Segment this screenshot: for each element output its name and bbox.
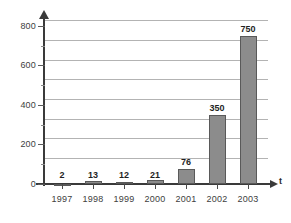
x-tick-2003 <box>248 184 249 189</box>
x-tick-label-1998: 1998 <box>76 194 110 204</box>
x-tick-label-2001: 2001 <box>169 194 203 204</box>
y-tick-0 <box>38 184 45 185</box>
bar-2001[interactable] <box>178 169 195 184</box>
x-tick-2001 <box>186 184 187 189</box>
x-tick-label-2003: 2003 <box>231 194 265 204</box>
x-tick-1999 <box>124 184 125 189</box>
x-tick-1997 <box>62 184 63 189</box>
y-tick-700 <box>41 46 45 47</box>
gridline-100 <box>44 158 268 159</box>
gridline-700 <box>44 40 268 41</box>
x-tick-label-2000: 2000 <box>138 194 172 204</box>
y-tick-500 <box>41 85 45 86</box>
gridline-600 <box>44 60 268 61</box>
x-tick-label-2002: 2002 <box>200 194 234 204</box>
y-tick-label-600: 600 <box>8 61 36 70</box>
y-tick-label-400: 400 <box>8 101 36 110</box>
plot-area <box>44 20 268 184</box>
x-axis-arrow-icon <box>270 180 278 188</box>
y-tick-label-800: 800 <box>8 22 36 31</box>
bar-chart: t 0 200 400 600 800 2 13 12 21 76 350 75… <box>0 0 291 223</box>
gridline-200 <box>44 138 268 139</box>
y-axis-line <box>43 18 45 186</box>
bar-value-2001: 76 <box>169 157 203 167</box>
y-tick-100 <box>41 164 45 165</box>
x-tick-2000 <box>155 184 156 189</box>
bar-value-1997: 2 <box>45 170 79 180</box>
y-tick-label-200: 200 <box>8 140 36 149</box>
bar-value-1999: 12 <box>107 170 141 180</box>
bar-value-2002: 350 <box>200 103 234 113</box>
y-tick-200 <box>38 144 45 145</box>
bar-value-2003: 750 <box>231 24 265 34</box>
bar-2003[interactable] <box>240 36 257 184</box>
bar-value-2000: 21 <box>138 170 172 180</box>
gridline-800 <box>44 20 268 21</box>
bar-2002[interactable] <box>209 115 226 184</box>
x-tick-1998 <box>93 184 94 189</box>
y-tick-label-0: 0 <box>8 180 36 189</box>
y-tick-400 <box>38 105 45 106</box>
x-tick-label-1997: 1997 <box>45 194 79 204</box>
bar-value-1998: 13 <box>76 170 110 180</box>
y-axis-arrow-icon <box>39 10 49 19</box>
y-tick-300 <box>41 125 45 126</box>
x-tick-2002 <box>217 184 218 189</box>
y-tick-600 <box>38 65 45 66</box>
y-tick-800 <box>38 26 45 27</box>
gridline-400 <box>44 99 268 100</box>
gridline-500 <box>44 79 268 80</box>
x-axis-title: t <box>279 176 282 186</box>
gridline-300 <box>44 119 268 120</box>
x-tick-label-1999: 1999 <box>107 194 141 204</box>
